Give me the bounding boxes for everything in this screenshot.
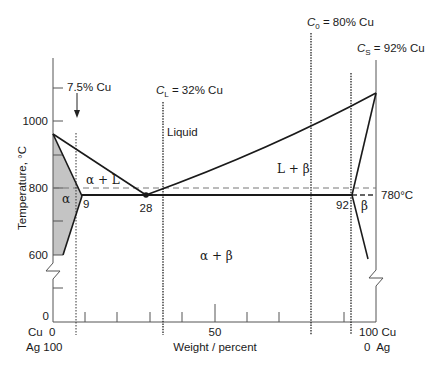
y-label-800: 800	[29, 182, 48, 194]
marker-c0-label: C0 = 80% Cu	[307, 16, 374, 31]
x-label-50: 50	[209, 326, 222, 338]
x-ticks	[85, 304, 344, 322]
x-label-100cu: 100 Cu	[359, 326, 396, 338]
y-label-0: 0	[43, 310, 49, 322]
marker-cl-label: CL = 32% Cu	[156, 84, 223, 99]
arrow-down-icon	[74, 110, 80, 118]
x-label-cu0: Cu 0	[28, 326, 56, 338]
eutectic-point	[143, 192, 149, 198]
phase-label-liquid: Liquid	[167, 126, 198, 138]
phase-label-beta: β	[361, 199, 368, 213]
point-label-9: 9	[83, 198, 89, 210]
phase-label-alpha: α	[62, 192, 70, 206]
right-axis-break-icon	[369, 270, 383, 286]
phase-label-l-beta: L + β	[277, 162, 310, 176]
x-axis-title: Weight / percent	[173, 341, 257, 353]
phase-diagram: 1000 800 600 0 Temperature, °C Cu 0 50 1…	[0, 0, 431, 367]
phase-label-alpha-l: α + L	[86, 173, 120, 187]
x-label-0ag: 0 Ag	[364, 341, 390, 353]
point-label-92: 92	[336, 199, 349, 211]
x-label-ag100: Ag 100	[26, 341, 62, 353]
point-label-28: 28	[140, 202, 153, 214]
y-axis-break-icon	[46, 263, 60, 279]
y-label-1000: 1000	[22, 115, 48, 127]
y-axis-title: Temperature, °C	[16, 146, 28, 230]
y-label-600: 600	[29, 249, 48, 261]
marker-cs-label: CS = 92% Cu	[357, 42, 425, 57]
phase-label-alpha-beta: α + β	[200, 249, 233, 263]
eutectic-temp-label: 780°C	[381, 189, 413, 201]
marker-7-5-label: 7.5% Cu	[67, 81, 111, 93]
